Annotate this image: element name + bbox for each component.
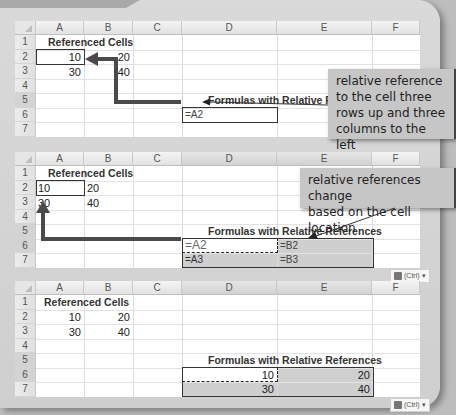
cell-a3[interactable]: 30 [36, 325, 81, 339]
column-header-c[interactable]: C [133, 281, 182, 295]
select-all-corner[interactable] [15, 152, 36, 166]
cell-b2[interactable]: 20 [85, 310, 130, 324]
column-header-b[interactable]: B [84, 21, 133, 35]
callout-relative-references-change: relative references change based on the … [300, 168, 456, 208]
column-header-b[interactable]: B [84, 281, 133, 295]
column-header-d[interactable]: D [182, 21, 277, 35]
cell-d6-formula[interactable]: =A3 [185, 253, 203, 267]
row-header-3[interactable]: 3 [15, 195, 36, 210]
cell-b3[interactable]: 40 [87, 196, 99, 210]
clipboard-icon [394, 401, 402, 409]
cell-b2[interactable]: 20 [85, 50, 130, 64]
row-header-6[interactable]: 6 [15, 108, 36, 123]
cell-e6-value[interactable]: 40 [277, 382, 370, 396]
cell-e5-value[interactable]: 20 [277, 368, 370, 382]
row-header-5[interactable]: 5 [15, 353, 36, 368]
column-header-e[interactable]: E [277, 21, 372, 35]
cell-a2[interactable]: 10 [38, 181, 50, 195]
column-header-e[interactable]: E [277, 152, 372, 166]
row-header-5[interactable]: 5 [15, 224, 36, 239]
column-header-c[interactable]: C [133, 152, 182, 166]
row-header-3[interactable]: 3 [15, 324, 36, 339]
cell-e6-formula[interactable]: =B3 [280, 253, 298, 267]
row-header-3[interactable]: 3 [15, 64, 36, 79]
select-all-corner[interactable] [15, 281, 36, 295]
select-all-corner[interactable] [15, 21, 36, 35]
row-header-4[interactable]: 4 [15, 339, 36, 354]
column-header-f[interactable]: F [372, 281, 420, 295]
referenced-cells-heading: Referenced Cells [48, 35, 133, 49]
column-header-a[interactable]: A [36, 152, 84, 166]
row-header-7[interactable]: 7 [15, 382, 36, 397]
callout-relative-reference: relative reference to the cell three row… [328, 69, 456, 139]
referenced-cells-heading: Referenced Cells [48, 166, 133, 180]
row-header-6[interactable]: 6 [15, 368, 36, 383]
row-header-2[interactable]: 2 [15, 181, 36, 196]
row-header-1[interactable]: 1 [15, 166, 36, 181]
cell-a2[interactable]: 10 [36, 310, 81, 324]
column-header-d[interactable]: D [182, 281, 277, 295]
column-header-c[interactable]: C [133, 21, 182, 35]
row-header-4[interactable]: 4 [15, 79, 36, 94]
selected-range-outline [182, 238, 374, 268]
cell-b3[interactable]: 40 [85, 325, 130, 339]
column-header-d[interactable]: D [182, 152, 277, 166]
cell-d6-value[interactable]: 30 [182, 382, 274, 396]
row-header-1[interactable]: 1 [15, 295, 36, 310]
paste-options-button[interactable]: (Ctrl) ▾ [390, 398, 430, 412]
cell-b2[interactable]: 20 [87, 181, 99, 195]
row-header-7[interactable]: 7 [15, 122, 36, 137]
referenced-cells-heading: Referenced Cells [44, 295, 129, 309]
column-header-b[interactable]: B [84, 152, 133, 166]
row-header-4[interactable]: 4 [15, 210, 36, 225]
column-header-a[interactable]: A [36, 281, 84, 295]
background-tab-edge [0, 0, 140, 8]
cell-d5-formula[interactable]: =A2 [185, 108, 203, 122]
cell-b3[interactable]: 40 [85, 65, 130, 79]
row-header-5[interactable]: 5 [15, 93, 36, 108]
column-header-f[interactable]: F [372, 152, 420, 166]
row-header-7[interactable]: 7 [15, 253, 36, 268]
cell-a3[interactable]: 30 [38, 196, 50, 210]
row-header-6[interactable]: 6 [15, 239, 36, 254]
row-header-2[interactable]: 2 [15, 310, 36, 325]
column-header-e[interactable]: E [277, 281, 372, 295]
formulas-heading: Formulas with Relative References [208, 353, 382, 367]
row-header-2[interactable]: 2 [15, 50, 36, 65]
cell-a2[interactable]: 10 [36, 50, 81, 64]
clipboard-icon [394, 272, 402, 280]
column-header-f[interactable]: F [372, 21, 420, 35]
spreadsheet-panel-3: A B C D E F 1 2 3 4 5 6 7 Referenced Cel… [15, 281, 420, 399]
row-header-1[interactable]: 1 [15, 35, 36, 50]
cell-d5-formula[interactable]: =A2 [185, 238, 207, 252]
column-header-a[interactable]: A [36, 21, 84, 35]
cell-d5-value[interactable]: 10 [182, 368, 274, 382]
cell-grid[interactable]: Referenced Cells 10 20 30 40 Formulas wi… [36, 295, 420, 397]
cell-e5-formula[interactable]: =B2 [280, 239, 298, 253]
cell-a3[interactable]: 30 [36, 65, 81, 79]
